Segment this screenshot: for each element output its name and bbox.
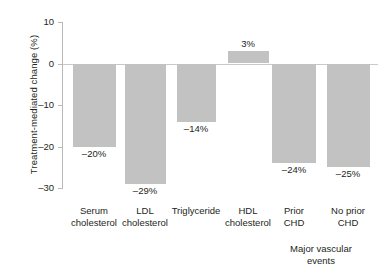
bar-ldl-cholesterol [125,64,166,184]
bar-hdl-cholesterol [228,51,269,63]
value-label-hdl-cholesterol: 3% [218,38,278,49]
value-label-triglyceride: –14% [166,123,226,134]
y-tick-4 [58,188,63,189]
bar-prior-chd [272,64,316,164]
bar-no-prior-chd [327,64,370,168]
y-tick-label-1: 0 [14,58,54,69]
y-tick-label-2: –10 [14,99,54,110]
bar-serum-cholesterol [73,64,116,147]
y-tick-label-3: –20 [14,141,54,152]
y-tick-2 [58,105,63,106]
value-label-prior-chd: –24% [264,164,324,175]
value-label-serum-cholesterol: –20% [64,148,124,159]
bar-triglyceride [177,64,216,122]
value-label-ldl-cholesterol: –29% [115,185,175,196]
y-tick-label-4: –30 [14,182,54,193]
y-tick-3 [58,147,63,148]
group-annotation-major-vascular-events: Major vascular events [262,243,380,266]
y-tick-1 [58,64,63,65]
y-tick-label-0: 10 [14,16,54,27]
value-label-no-prior-chd: –25% [318,168,378,179]
plot-area: 10 0 –10 –20 –30 –20% –29% –14% 3% –24% … [62,22,378,188]
y-tick-0 [58,22,63,23]
bar-chart-figure: Treatment-mediated change (%) 10 0 –10 –… [0,0,388,276]
x-category-label-no-prior-chd: No prior CHD [310,205,386,228]
